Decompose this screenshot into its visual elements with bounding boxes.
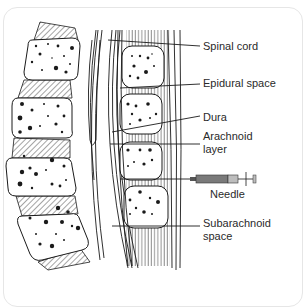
- label-arachnoid-line1: Arachnoid: [203, 130, 253, 143]
- needle-syringe: [190, 172, 256, 186]
- label-arachnoid-line2: layer: [203, 143, 227, 156]
- label-epidural-space: Epidural space: [203, 77, 276, 90]
- label-dura: Dura: [203, 111, 227, 124]
- label-spinal-cord: Spinal cord: [203, 40, 258, 53]
- label-subarachnoid-line2: space: [203, 230, 232, 243]
- label-subarachnoid-line1: Subarachnoid: [203, 217, 271, 230]
- label-needle: Needle: [210, 188, 245, 201]
